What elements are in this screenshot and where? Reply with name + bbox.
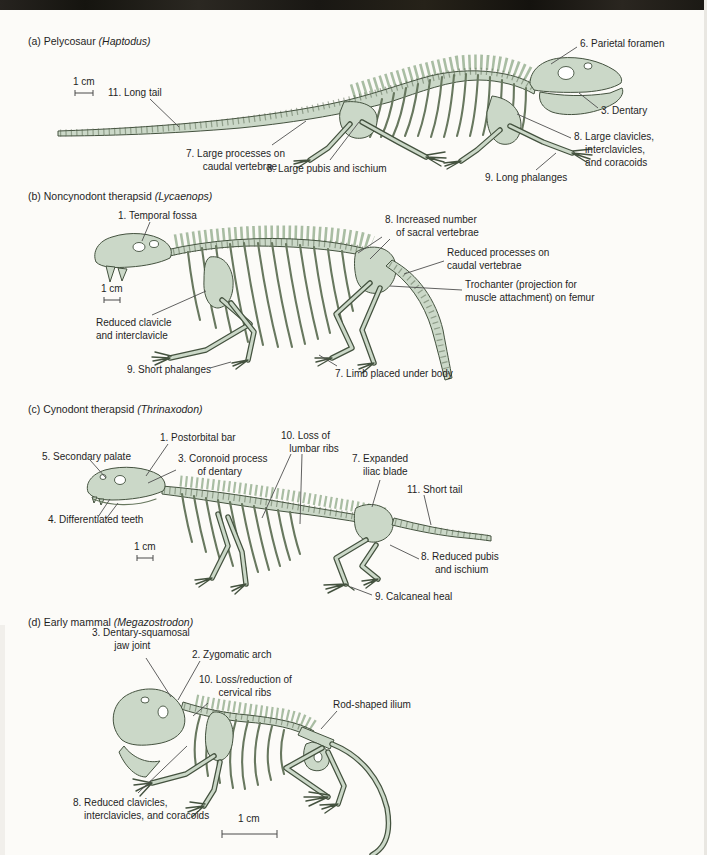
- label-reduced-clavicles-d: 8. Reduced clavicles, interclavicles, an…: [73, 796, 209, 822]
- label-reduced-caudal: Reduced processes on caudal vertebrae: [447, 246, 549, 272]
- skull: [113, 689, 185, 745]
- scapula: [205, 712, 233, 761]
- panel-b-title: (b) Noncynodont therapsid (Lycaenops): [28, 190, 212, 202]
- scale-bar: [137, 555, 153, 561]
- scale-bar: [75, 90, 93, 96]
- label-pubis-ischium: 8. Large pubis and ischium: [267, 162, 387, 175]
- label-coronoid-process: 3. Coronoid process of dentary: [178, 452, 268, 478]
- label-rod-ilium: Rod-shaped ilium: [333, 698, 411, 711]
- label-long-phalanges: 9. Long phalanges: [485, 171, 567, 184]
- label-limb-under-body: 7. Limb placed under body: [335, 367, 453, 380]
- label-clavicles-a: 8. Large clavicles, interclavicles, and …: [574, 130, 654, 169]
- canine-teeth: [106, 266, 127, 282]
- panel-a-caption: (a) Pelycosaur: [28, 35, 96, 47]
- orbit-opening: [115, 476, 126, 485]
- label-temporal-fossa: 1. Temporal fossa: [118, 209, 197, 222]
- label-cervical-ribs: 10. Loss/reduction of cervical ribs: [199, 673, 292, 699]
- orbit-opening: [158, 706, 168, 718]
- label-secondary-palate: 5. Secondary palate: [42, 450, 131, 463]
- spine: [166, 238, 370, 257]
- skeleton-figure: [0, 0, 707, 855]
- panel-a-title: (a) Pelycosaur (Haptodus): [28, 35, 151, 47]
- label-jaw-joint: 3. Dentary-squamosal jaw joint: [92, 626, 190, 652]
- front-limbs: [444, 126, 592, 169]
- panel-c-caption: (c) Cynodont therapsid: [28, 403, 134, 415]
- iliac-blade: [354, 504, 393, 542]
- label-dentary: 3. Dentary: [601, 104, 647, 117]
- temporal-fossa-opening: [133, 243, 145, 252]
- lower-jaw: [119, 746, 160, 777]
- hind-limbs: [315, 283, 380, 373]
- label-short-tail: 11. Short tail: [407, 483, 462, 496]
- panel-b-genus: (Lycaenops): [152, 190, 213, 202]
- label-differentiated-teeth: 4. Differentiated teeth: [48, 513, 143, 526]
- pelycosaur-skeleton: [58, 47, 623, 170]
- label-long-tail: 11. Long tail: [108, 86, 162, 99]
- label-short-phalanges: 9. Short phalanges: [127, 363, 211, 376]
- front-limbs: [195, 514, 246, 594]
- skull: [95, 234, 172, 268]
- label-scale-a: 1 cm: [73, 75, 95, 88]
- scale-bar: [222, 830, 277, 838]
- label-zygomatic-arch: 2. Zygomatic arch: [192, 648, 271, 661]
- skull: [530, 58, 622, 93]
- label-scale-b: 1 cm: [101, 282, 123, 295]
- label-calcaneal-heel: 9. Calcaneal heal: [375, 590, 452, 603]
- parietal-foramen-opening: [584, 63, 592, 69]
- orbit-opening: [558, 67, 574, 80]
- label-postorbital-bar: 1. Postorbital bar: [160, 431, 236, 444]
- scapula: [204, 257, 233, 308]
- temporal-opening: [141, 697, 149, 703]
- panel-c-title: (c) Cynodont therapsid (Thrinaxodon): [28, 403, 203, 415]
- label-reduced-pubis: 8. Reduced pubis and ischium: [421, 550, 499, 576]
- hind-limbs: [324, 540, 378, 593]
- panel-c-genus: (Thrinaxodon): [134, 403, 202, 415]
- label-iliac-blade: 7. Expanded iliac blade: [352, 452, 408, 478]
- label-lumbar-ribs: 10. Loss of lumbar ribs: [281, 429, 339, 455]
- label-scale-c: 1 cm: [134, 540, 156, 553]
- scale-bar: [104, 297, 120, 303]
- label-scale-d: 1 cm: [238, 812, 260, 825]
- label-sacral-vertebrae: 8. Increased number of sacral vertebrae: [385, 213, 479, 239]
- skull: [87, 467, 165, 500]
- panel-b-caption: (b) Noncynodont therapsid: [28, 190, 152, 202]
- orbit-opening: [150, 241, 159, 248]
- figure-page: (a) Pelycosaur (Haptodus) (b) Noncynodon…: [0, 0, 707, 855]
- panel-a-genus: (Haptodus): [96, 35, 151, 47]
- tail: [386, 260, 452, 380]
- label-reduced-clavicle: Reduced clavicle and interclavicle: [96, 316, 172, 342]
- label-trochanter: Trochanter (projection for muscle attach…: [465, 278, 595, 304]
- noncynodont-skeleton: [95, 222, 462, 380]
- label-parietal-foramen: 6. Parietal foramen: [580, 37, 665, 50]
